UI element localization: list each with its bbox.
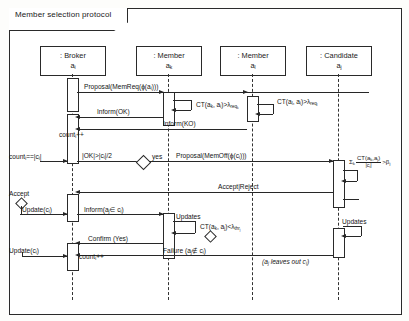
msg-proposal-memreq-arrow-k [159, 90, 164, 94]
selfloop-l-top [257, 104, 273, 105]
guard-ct-al-ai: CT(al, ai)>λreql [277, 98, 318, 107]
guard-ct-ak-aj: CT(ak, aj)<λthrj [200, 223, 240, 232]
lifeline-member-k-name: : Member [153, 51, 184, 61]
action-update-ci-2: Update(ci) [9, 247, 39, 256]
activation-broker-3 [67, 194, 79, 222]
msg-inform-ko-label: Inform(KO) [163, 120, 196, 127]
msg-updates-label-candidate: Updates [342, 218, 367, 225]
msg-proposal-memreq-line [77, 92, 369, 93]
activation-broker-1 [67, 78, 79, 112]
action-count-increment-2: counti++ [79, 253, 104, 262]
activation-candidate-1 [333, 160, 345, 208]
action-count-equals-card: counti==|ci| [9, 153, 42, 162]
formula-sigma: Σk [349, 158, 355, 166]
selfloop-k-right [191, 100, 192, 110]
selfloop-candidate-right [357, 170, 358, 181]
msg-updates-label-k: Updates [176, 213, 201, 220]
msg-confirm-yes-label: Confirm (Yes) [88, 235, 128, 242]
selfloop-k-arrow [171, 108, 176, 112]
decision-ok-majority-label: |OK|>|ci|/2 [82, 152, 112, 161]
selfloop-candidate3-arrow [341, 234, 346, 238]
lifeline-member-k[interactable]: : Member ak [136, 46, 202, 76]
msg-proposal-memreq-label: Proposal(MemReq(ϕ(ai))) [84, 83, 158, 92]
decision-in-line [77, 161, 139, 162]
sequence-diagram-canvas: Member selection protocol : Broker ai : … [0, 0, 409, 321]
update-ci-line-2 [22, 256, 67, 257]
msg-inform-ko-arrow [75, 127, 80, 131]
selfloop-k2-top [173, 221, 195, 222]
lifeline-member-l-name: : Member [237, 51, 268, 61]
msg-inform-ko-line [77, 129, 247, 130]
selfloop-k-top [173, 100, 191, 101]
lifeline-broker[interactable]: : Broker ai [40, 46, 106, 76]
selfloop-k2-right [195, 221, 196, 233]
decision-branch-yes: yes [152, 153, 162, 160]
selfloop-k2-arrow [171, 231, 176, 235]
selfloop-candidate-top [343, 170, 357, 171]
msg-confirm-yes-line [77, 243, 163, 244]
frame-label: Member selection protocol [9, 8, 128, 31]
activation-broker-4 [67, 243, 79, 271]
selfloop-candidate3-bottom [343, 226, 361, 227]
msg-inform-ok-label: Inform(OK) [97, 108, 130, 115]
update-ci-stem-2 [22, 252, 23, 256]
selfloop-candidate-arrow [341, 179, 346, 183]
count-equals-stub-arrow [63, 159, 68, 163]
decision-accept-label: Accept [9, 190, 29, 197]
note-leaves-out: (aj leaves out ci) [262, 258, 309, 267]
selfloop-k2-bottom [173, 233, 195, 234]
lifeline-candidate-name: : Candidate [320, 51, 358, 61]
guard-ct-ak-ai: CT(ak, ai)>λreqk [196, 101, 239, 110]
update-ci-arrow-2 [63, 254, 68, 258]
msg-inform-member-arrow [159, 212, 164, 216]
msg-proposal-memoff-label: Proposal(MemOff(ϕ(ci))) [176, 152, 247, 161]
msg-confirm-yes-arrow [75, 241, 80, 245]
lifeline-candidate[interactable]: : Candidate aj [306, 46, 372, 76]
msg-inform-member-label: Inform(aj∈ ci) [84, 206, 124, 215]
selfloop-l-right [273, 104, 274, 114]
formula-comparator: >βj [382, 158, 390, 166]
formula-fraction: CT(ak,aj) |ci| [356, 155, 381, 170]
msg-accept-reject-label: Accept|Reject [218, 183, 259, 190]
formula-denominator: |ci| [356, 163, 381, 170]
activation-candidate-2 [333, 228, 345, 258]
lifeline-member-l[interactable]: : Member al [220, 46, 286, 76]
lifeline-broker-name: : Broker [60, 51, 86, 61]
lifeline-candidate-id: aj [336, 61, 341, 71]
msg-proposal-memoff-arrow [329, 159, 334, 163]
activation-member-l-1 [247, 96, 259, 122]
msg-proposal-memoff-line [149, 161, 333, 162]
lifeline-member-l-id: al [250, 61, 255, 71]
selfloop-candidate2-top [343, 199, 359, 200]
msg-proposal-memreq-arrow-l [243, 90, 248, 94]
lifeline-member-k-id: ak [166, 61, 173, 71]
msg-inform-ok-arrow [75, 115, 80, 119]
action-update-ci-1: Update(ci) [22, 206, 52, 215]
msg-failure-label: Failure (aj∉ ci) [163, 247, 206, 256]
action-count-increment-1: counti++ [59, 131, 84, 140]
selfloop-candidate3-right [361, 226, 362, 236]
formula-trust-average: Σk CT(ak,aj) |ci| >βj [349, 155, 390, 170]
update-ci-arrow-1 [63, 212, 68, 216]
msg-inform-ok-line [77, 117, 163, 118]
msg-accept-reject-arrow [75, 190, 80, 194]
lifeline-broker-id: ai [70, 61, 75, 71]
msg-accept-reject-line [77, 192, 333, 193]
selfloop-l-arrow [255, 112, 260, 116]
